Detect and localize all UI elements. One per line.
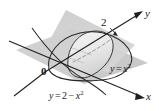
equation-y-equals-2-minus-x-squared: y=2−x2 [49, 91, 83, 101]
eq-right-lhs: y [110, 63, 114, 74]
y-axis-tick-label-2: 2 [101, 17, 107, 28]
eq-bottom-minus: − [69, 90, 75, 101]
eq-right-exponent: 2 [128, 62, 131, 69]
eq-bottom-exponent: 2 [80, 89, 83, 96]
eq-bottom-constant: 2 [62, 90, 67, 101]
x-axis-arrowhead [135, 93, 145, 100]
figure-container: y x 0 2 y=x2 y=2−x2 [0, 0, 159, 111]
y-axis-label: y [145, 8, 150, 19]
eq-bottom-operator: = [55, 90, 61, 101]
y-axis-arrowhead [134, 11, 143, 19]
origin-label: 0 [41, 66, 47, 77]
eq-bottom-lhs: y [49, 90, 53, 101]
x-axis-label: x [146, 91, 151, 102]
equation-y-equals-x-squared: y=x2 [110, 64, 131, 74]
eq-right-operator: = [116, 63, 122, 74]
